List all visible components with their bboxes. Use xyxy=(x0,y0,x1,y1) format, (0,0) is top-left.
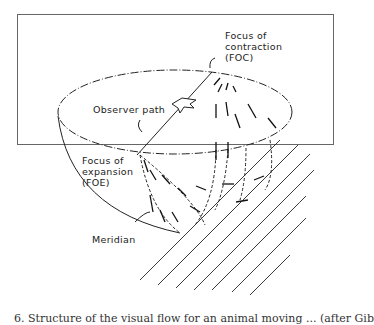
bird-icon xyxy=(172,98,196,113)
foe-label: Focus of expansion (FOE) xyxy=(82,155,133,188)
observer-path-label: Observer path xyxy=(93,104,165,115)
foc-label: Focus of contraction (FOC) xyxy=(225,30,282,63)
figure-border xyxy=(17,14,332,143)
figure-caption: 6. Structure of the visual flow for an a… xyxy=(14,312,374,325)
meridian-label: Meridian xyxy=(92,234,136,245)
